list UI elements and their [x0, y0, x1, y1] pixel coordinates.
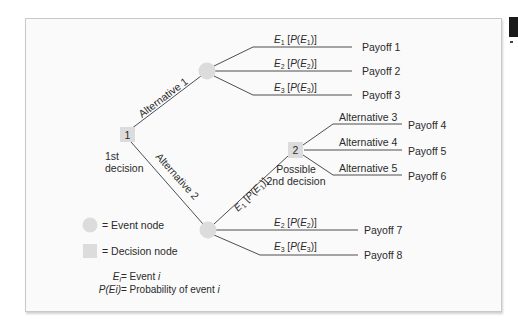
decision-2-caption-line-2: 2nd decision: [267, 175, 326, 187]
payoff-2: Payoff 2: [362, 65, 400, 77]
event-3-bottom-label: E3 [P(E3)]: [274, 241, 317, 253]
legend-event-node-icon: [83, 218, 98, 233]
alternative-4-label: Alternative 4: [339, 136, 398, 148]
alternative-5-label: Alternative 5: [339, 162, 398, 174]
event-1-bottom-label: E1 [P(E1)]: [232, 175, 271, 214]
alternative-3-label: Alternative 3: [339, 111, 398, 123]
payoff-4: Payoff 4: [408, 119, 446, 131]
alternative-1-label: Alternative 1: [136, 75, 190, 120]
payoff-1: Payoff 1: [362, 41, 400, 53]
legend-decision-node-icon: [83, 244, 97, 258]
legend-ei-rhs: = Event i: [121, 271, 161, 282]
event-node-1: [199, 63, 216, 80]
legend-pei-rhs: = Probability of event i: [121, 284, 220, 295]
tree-lines: [131, 47, 402, 255]
legend-decision-node-label: = Decision node: [102, 245, 178, 257]
event-node-2: [200, 222, 217, 239]
decision-node-1-label: 1: [125, 129, 131, 141]
event-1-top-label: E1 [P(E1)]: [274, 34, 317, 46]
decision-node-2-label: 2: [293, 144, 299, 156]
decision-1-caption-line-2: decision: [105, 162, 144, 174]
event-2-bottom-label: E2 [P(E2)]: [274, 217, 317, 229]
payoff-6: Payoff 6: [408, 170, 446, 182]
legend-pei-lhs: P(Ei): [99, 284, 121, 295]
payoff-8: Payoff 8: [364, 249, 402, 261]
payoff-5: Payoff 5: [408, 145, 446, 157]
branch-alternative-1: [131, 76, 201, 129]
decision-1-caption-line-1: 1st: [105, 150, 119, 162]
event-3-top-label: E3 [P(E3)]: [274, 82, 317, 94]
legend-event-node-label: = Event node: [102, 219, 164, 231]
decision-2-caption-line-1: Possible: [276, 163, 316, 175]
event-2-top-label: E2 [P(E2)]: [274, 58, 317, 70]
decision-tree: 1 2 1st decision Possible 2nd decision A…: [0, 0, 518, 327]
payoff-7: Payoff 7: [364, 224, 402, 236]
payoff-3: Payoff 3: [362, 89, 400, 101]
